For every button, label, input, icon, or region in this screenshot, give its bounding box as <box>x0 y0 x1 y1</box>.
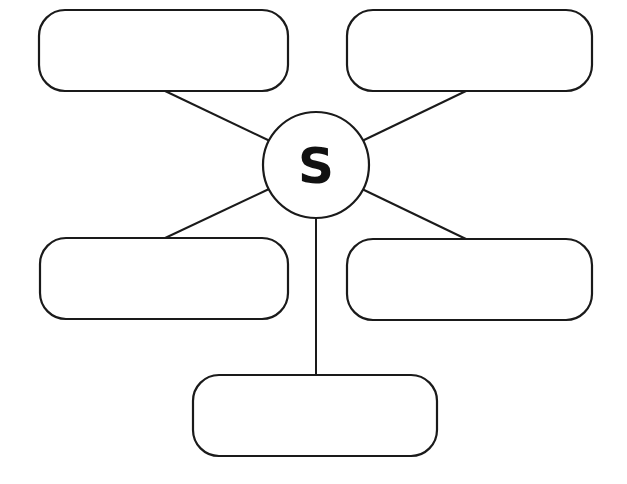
connector-top-right <box>362 91 466 141</box>
connector-middle-left <box>163 189 269 239</box>
box-top-right[interactable] <box>347 10 592 91</box>
box-top-left[interactable] <box>39 10 288 91</box>
box-bottom[interactable] <box>193 375 437 456</box>
center-hub: S <box>263 112 369 218</box>
spider-diagram: S <box>0 0 627 484</box>
connector-middle-right <box>362 189 466 239</box>
box-middle-left[interactable] <box>40 238 288 319</box>
connector-top-left <box>163 90 270 141</box>
box-middle-right[interactable] <box>347 239 592 320</box>
center-label: S <box>298 137 334 195</box>
